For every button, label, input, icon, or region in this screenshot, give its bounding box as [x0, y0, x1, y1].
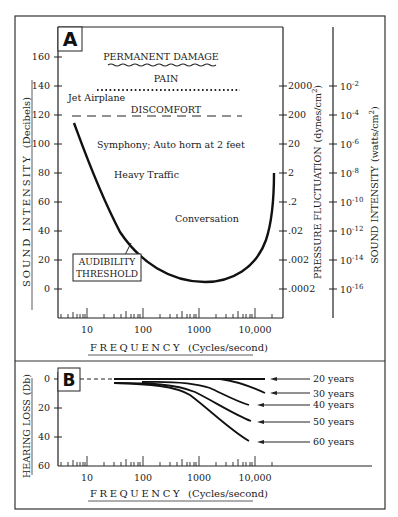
svg-text:HEARING LOSS(Db): HEARING LOSS(Db): [21, 374, 32, 478]
svg-text:PRESSURE FLUCTUATION(dynes/cm2: PRESSURE FLUCTUATION(dynes/cm2): [311, 85, 323, 279]
svg-text:80: 80: [38, 167, 50, 178]
panel-a: A 160 140 120 100 80 60 40 20 0 SOUND IN…: [21, 27, 380, 355]
svg-text:.2: .2: [288, 196, 297, 207]
svg-text:100: 100: [32, 138, 50, 149]
svg-text:2: 2: [288, 167, 294, 178]
x-axis-title-b: FREQUENCY(Cycles/second): [90, 488, 268, 499]
label-pain: PAIN: [154, 73, 178, 84]
x-tick-labels-b: 10 100 1000 10,000: [81, 472, 272, 483]
legend-30-years: 30 years: [270, 388, 354, 399]
label-jet-airplane: Jet Airplane: [67, 92, 126, 103]
panel-label-b: B: [63, 370, 76, 390]
svg-text:.02: .02: [288, 225, 303, 236]
x-ticks-b: [61, 456, 272, 466]
svg-text:1000: 1000: [187, 324, 211, 335]
svg-text:100: 100: [134, 472, 152, 483]
svg-text:20 years: 20 years: [313, 373, 354, 384]
svg-text:200: 200: [288, 109, 306, 120]
svg-text:40: 40: [38, 431, 50, 442]
svg-text:20: 20: [38, 254, 50, 265]
legend-50-years: 50 years: [257, 416, 354, 427]
svg-text:0: 0: [44, 373, 50, 384]
intensity-ticks: 10-2 10-4 10-6 10-8 10-10 10-12 10-14 10…: [329, 80, 364, 295]
label-symphony: Symphony; Auto horn at 2 feet: [97, 139, 245, 150]
svg-text:20: 20: [38, 402, 50, 413]
svg-text:30 years: 30 years: [313, 388, 354, 399]
svg-text:60: 60: [38, 196, 50, 207]
svg-text:10-2: 10-2: [340, 80, 359, 92]
svg-text:AUDIBILITY: AUDIBILITY: [78, 257, 137, 267]
svg-text:.002: .002: [288, 254, 309, 265]
svg-text:40 years: 40 years: [313, 399, 354, 410]
wavy-underline: [108, 64, 216, 66]
label-discomfort: DISCOMFORT: [131, 104, 202, 115]
svg-text:10-8: 10-8: [340, 167, 359, 179]
svg-text:20: 20: [288, 138, 300, 149]
svg-text:10: 10: [81, 324, 93, 335]
callout-leader: [125, 243, 131, 255]
x-tick-labels-a: 10 100 1000 10,000: [81, 324, 272, 335]
svg-text:60: 60: [38, 460, 50, 471]
svg-text:10: 10: [81, 472, 93, 483]
svg-text:140: 140: [32, 80, 50, 91]
svg-text:120: 120: [32, 109, 50, 120]
svg-text:SOUND INTENSITY(Decibels): SOUND INTENSITY(Decibels): [21, 97, 32, 287]
svg-text:SOUND INTENSITY(watts/cm2): SOUND INTENSITY(watts/cm2): [368, 106, 380, 264]
x-axis-title-a: FREQUENCY(Cycles/second): [90, 342, 268, 353]
hearing-loss-curves: [114, 379, 265, 441]
svg-text:10-4: 10-4: [340, 109, 359, 121]
pressure-ticks: 2000 200 20 2 .2 .02 .002 .0002: [279, 80, 315, 294]
y-axis-title-b: HEARING LOSS(Db): [21, 374, 32, 478]
figure: A 160 140 120 100 80 60 40 20 0 SOUND IN…: [0, 0, 398, 517]
legend-40-years: 40 years: [257, 399, 354, 410]
svg-text:10,000: 10,000: [238, 324, 271, 335]
svg-text:50 years: 50 years: [313, 416, 354, 427]
svg-text:10-10: 10-10: [340, 196, 363, 208]
svg-text:10-12: 10-12: [340, 225, 363, 237]
svg-text:2000: 2000: [288, 80, 312, 91]
svg-text:10-14: 10-14: [340, 254, 364, 266]
svg-text:10-16: 10-16: [340, 283, 364, 295]
svg-text:40: 40: [38, 225, 50, 236]
svg-text:10,000: 10,000: [238, 472, 271, 483]
svg-text:160: 160: [32, 51, 50, 62]
svg-text:THRESHOLD: THRESHOLD: [76, 269, 138, 279]
y-axis-title-left: SOUND INTENSITY(Decibels): [21, 97, 32, 287]
svg-text:0: 0: [44, 283, 50, 294]
svg-text:100: 100: [134, 324, 152, 335]
x-ticks-a: [61, 308, 272, 318]
age-legend: 20 years 30 years 40 years 50 years 60 y: [257, 373, 354, 447]
curve-60-years: [114, 383, 249, 441]
svg-text:10-6: 10-6: [340, 138, 359, 150]
label-conversation: Conversation: [175, 213, 239, 224]
svg-text:.0002: .0002: [288, 283, 315, 294]
label-heavy-traffic: Heavy Traffic: [114, 169, 179, 180]
label-permanent-damage: PERMANENT DAMAGE: [103, 51, 219, 62]
legend-60-years: 60 years: [257, 436, 354, 447]
pressure-axis-title: PRESSURE FLUCTUATION(dynes/cm2): [311, 85, 323, 279]
svg-text:60 years: 60 years: [313, 436, 354, 447]
panel-label-a: A: [63, 28, 78, 50]
svg-text:1000: 1000: [187, 472, 211, 483]
legend-20-years: 20 years: [270, 373, 354, 384]
curve-50-years: [114, 383, 251, 421]
intensity-axis-title: SOUND INTENSITY(watts/cm2): [368, 106, 380, 264]
panel-b: B 0 20 40 60 HEARING LOSS(Db) 10 100 100…: [21, 368, 372, 501]
